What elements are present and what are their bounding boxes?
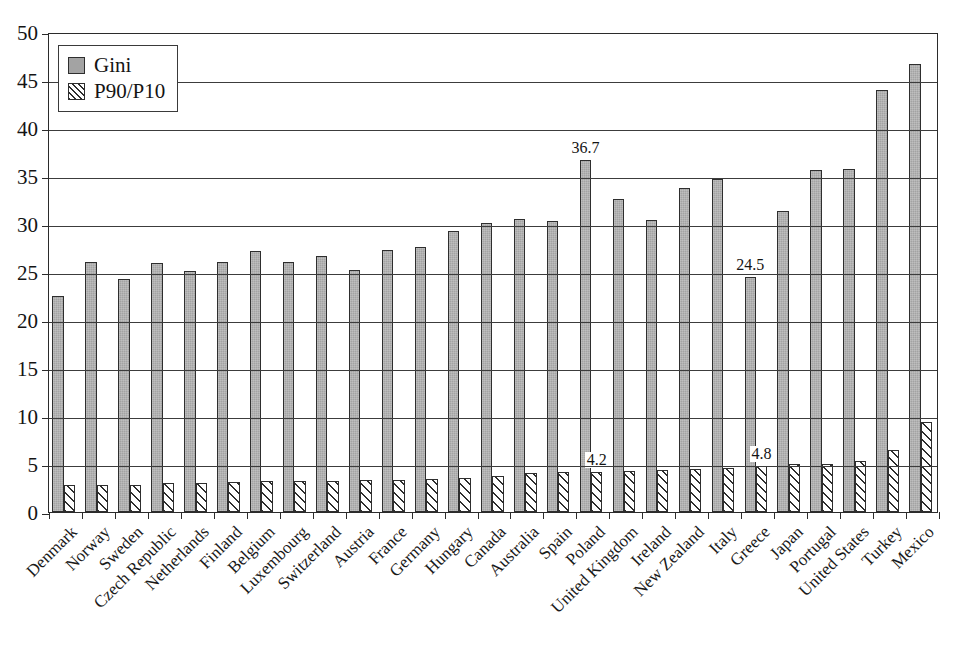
legend-item-gini: Gini [68,52,165,78]
y-tickmark [42,82,49,83]
legend-label-gini: Gini [94,55,131,76]
y-tickmark [42,322,49,323]
y-tick-label: 15 [17,359,38,380]
y-tickmark [42,34,49,35]
y-tickmark [42,418,49,419]
bar-gini [316,256,327,512]
bar-gini [843,169,854,512]
bar-value-label: 24.5 [734,257,766,273]
bar-gini [85,262,96,512]
bar-gini [448,231,459,512]
gridline [49,274,937,275]
y-tick-label: 10 [17,407,38,428]
gridline [49,370,937,371]
y-tick-label: 0 [28,503,39,524]
bar-p90p10 [64,485,75,512]
bar-gini [415,247,426,512]
gridline [49,466,937,467]
y-tickmark [42,130,49,131]
gridline [49,226,937,227]
bar-gini [184,271,195,512]
bar-gini [876,90,887,512]
gridline [49,418,937,419]
legend-swatch-gini-icon [68,57,85,74]
bar-gini [52,296,63,512]
y-tick-label: 5 [28,455,39,476]
x-axis-category-labels: DenmarkNorwaySwedenCzech RepublicNetherl… [48,513,938,656]
y-tickmark [42,466,49,467]
y-tickmark [42,370,49,371]
y-tickmark [42,274,49,275]
chart-legend: Gini P90/P10 [58,45,178,112]
bar-gini [151,263,162,512]
bar-gini [646,220,657,512]
gridline [49,82,937,83]
y-tickmark [42,226,49,227]
bar-gini [283,262,294,512]
y-tick-label: 25 [17,263,38,284]
bar-gini [118,279,129,512]
bar-gini [514,219,525,512]
plot-area: 36.74.224.54.8 [48,33,938,513]
bars-layer: 36.74.224.54.8 [49,34,937,512]
bar-gini [547,221,558,512]
gridline [49,178,937,179]
y-tick-label: 30 [17,215,38,236]
y-tick-label: 45 [17,71,38,92]
y-tick-label: 40 [17,119,38,140]
y-tick-label: 20 [17,311,38,332]
legend-item-p90p10: P90/P10 [68,78,165,104]
y-tick-label: 50 [17,23,38,44]
gini-p90p10-bar-chart: 05101520253035404550 36.74.224.54.8 Gini… [0,0,958,656]
bar-value-label: 36.7 [569,140,601,156]
legend-swatch-p90p10-icon [68,83,85,100]
legend-label-p90p10: P90/P10 [94,81,165,102]
y-tickmark [42,178,49,179]
gridline [49,130,937,131]
bar-gini [810,170,821,512]
gridline [49,322,937,323]
bar-value-label: 4.8 [750,446,774,462]
bar-gini [481,223,492,512]
y-tick-label: 35 [17,167,38,188]
